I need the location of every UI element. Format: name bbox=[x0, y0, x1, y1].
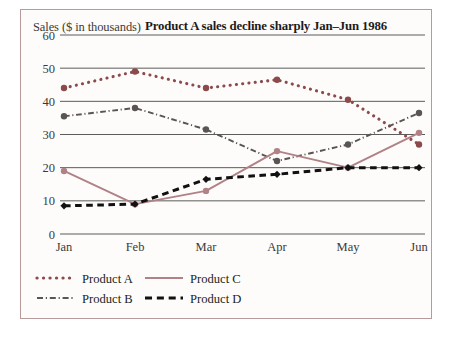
line-chart-svg: 0102030405060 JanFebMarAprMayJun Product… bbox=[21, 10, 433, 320]
x-tick-label: Jun bbox=[410, 240, 428, 254]
data-point-marker bbox=[203, 126, 209, 132]
y-tick-labels: 0102030405060 bbox=[43, 29, 56, 242]
data-point-marker bbox=[131, 201, 138, 208]
series-line bbox=[64, 168, 419, 206]
data-point-marker bbox=[61, 85, 67, 91]
legend-label: Product B bbox=[82, 292, 133, 306]
x-tick-label: Jan bbox=[56, 240, 73, 254]
x-tick-label: May bbox=[337, 240, 361, 254]
data-point-marker bbox=[203, 85, 209, 91]
data-point-marker bbox=[61, 113, 67, 119]
data-point-marker bbox=[60, 202, 67, 209]
data-point-marker bbox=[202, 176, 209, 183]
legend: Product AProduct CProduct BProduct D bbox=[37, 272, 241, 306]
x-tick-labels: JanFebMarAprMayJun bbox=[56, 240, 429, 254]
data-point-marker bbox=[345, 96, 351, 102]
data-point-marker bbox=[416, 141, 422, 147]
legend-label: Product A bbox=[82, 272, 133, 286]
plot-area: 0102030405060 JanFebMarAprMayJun Product… bbox=[21, 10, 433, 320]
y-tick-label: 50 bbox=[43, 62, 56, 76]
y-tick-label: 20 bbox=[43, 161, 56, 175]
data-point-marker bbox=[274, 158, 280, 164]
chart-figure: Sales ($ in thousands) Product A sales d… bbox=[20, 9, 432, 319]
x-tick-label: Feb bbox=[126, 240, 145, 254]
y-tick-label: 30 bbox=[43, 128, 56, 142]
data-point-marker bbox=[61, 168, 67, 174]
y-tick-label: 40 bbox=[43, 95, 56, 109]
data-point-marker bbox=[344, 164, 351, 171]
series-line bbox=[64, 71, 419, 144]
y-tick-label: 0 bbox=[49, 228, 55, 242]
data-point-marker bbox=[415, 164, 422, 171]
legend-label: Product C bbox=[190, 272, 241, 286]
x-tick-label: Apr bbox=[267, 240, 287, 254]
data-point-marker bbox=[132, 105, 138, 111]
data-point-marker bbox=[132, 68, 138, 74]
data-point-marker bbox=[274, 77, 280, 83]
data-point-marker bbox=[203, 188, 209, 194]
data-point-marker bbox=[416, 110, 422, 116]
series-line bbox=[64, 133, 419, 204]
y-tick-label: 60 bbox=[43, 29, 56, 43]
data-point-marker bbox=[345, 141, 351, 147]
y-tick-label: 10 bbox=[43, 194, 56, 208]
data-point-marker bbox=[273, 171, 280, 178]
legend-label: Product D bbox=[190, 292, 241, 306]
data-series-group bbox=[60, 68, 422, 209]
x-tick-label: Mar bbox=[196, 240, 218, 254]
data-point-marker bbox=[416, 130, 422, 136]
data-point-marker bbox=[274, 148, 280, 154]
